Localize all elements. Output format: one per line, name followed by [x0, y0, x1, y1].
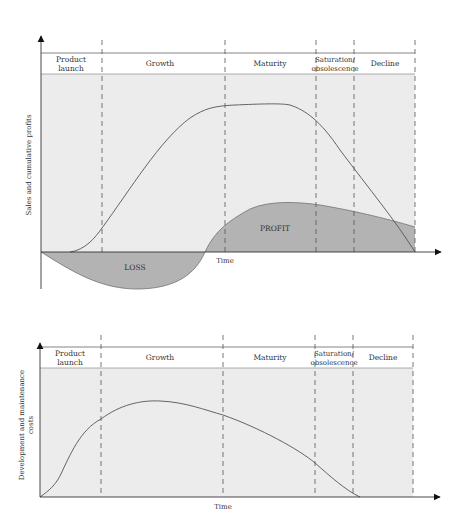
top-phase-label-launch-1: Product — [56, 55, 86, 64]
bottom-x-axis-label: Time — [214, 503, 232, 511]
top-x-axis-label: Time — [216, 257, 234, 265]
top-phase-label-growth: Growth — [146, 59, 175, 68]
bottom-phase-label-launch-1: Product — [55, 349, 85, 358]
top-phase-label-saturation-1: Saturation/ — [315, 56, 356, 64]
top-phase-label-decline: Decline — [371, 59, 400, 68]
top-phase-label-saturation-2: obsolescence — [311, 65, 358, 73]
product-lifecycle-diagram: Product launch Growth Maturity Saturatio… — [0, 0, 463, 530]
bottom-phase-label-saturation-1: Saturation/ — [314, 350, 355, 358]
top-phase-band — [41, 53, 415, 74]
top-chart: Product launch Growth Maturity Saturatio… — [25, 36, 441, 289]
bottom-y-axis-label-2: costs — [27, 416, 35, 435]
loss-label: LOSS — [124, 263, 145, 272]
top-y-axis-label: Sales and cumulative profits — [25, 114, 33, 215]
bottom-phase-label-growth: Growth — [146, 353, 175, 362]
bottom-phase-label-launch-2: launch — [57, 358, 83, 367]
loss-area — [41, 252, 205, 289]
profit-label: PROFIT — [260, 224, 290, 233]
bottom-chart: Product launch Growth Maturity Saturatio… — [18, 335, 440, 511]
bottom-y-axis-label-1: Development and maintenance — [18, 370, 26, 480]
bottom-phase-label-decline: Decline — [369, 353, 398, 362]
top-phase-label-maturity: Maturity — [253, 59, 287, 68]
top-phase-label-launch-2: launch — [58, 64, 84, 73]
bottom-phase-label-maturity: Maturity — [253, 353, 287, 362]
bottom-chart-plot-area — [40, 368, 413, 497]
bottom-phase-label-saturation-2: obsolescence — [310, 359, 357, 367]
